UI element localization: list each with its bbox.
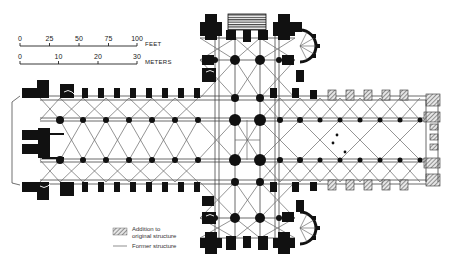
feet-tick-100: 100 <box>131 35 143 42</box>
meters-tick-0: 0 <box>18 53 22 60</box>
scale-bar-meters: 0 10 20 30 METERS <box>18 53 172 65</box>
plan-drawing <box>12 14 440 254</box>
north-porch-steps <box>228 14 266 30</box>
meters-unit-label: METERS <box>145 59 172 65</box>
feet-tick-25: 25 <box>46 35 54 42</box>
legend-hatched-swatch <box>113 228 127 235</box>
legend-addition-line1: Addition to <box>132 226 161 232</box>
vault-ribs <box>40 38 420 238</box>
legend: Addition to original structure Former st… <box>113 226 177 249</box>
meters-tick-10: 10 <box>55 53 63 60</box>
meters-tick-30: 30 <box>133 53 141 60</box>
legend-addition-line2: original structure <box>132 233 177 239</box>
cathedral-floor-plan: 0 25 50 75 100 FEET 0 10 20 30 METERS <box>0 0 455 264</box>
meters-tick-20: 20 <box>94 53 102 60</box>
feet-tick-75: 75 <box>105 35 113 42</box>
north-apsidal-chapel <box>292 22 320 62</box>
legend-former-structure: Former structure <box>132 243 177 249</box>
feet-unit-label: FEET <box>145 41 162 47</box>
south-apsidal-chapel <box>300 212 320 244</box>
scale-bar-feet: 0 25 50 75 100 FEET <box>18 35 162 47</box>
east-end-additions <box>328 90 440 190</box>
feet-tick-0: 0 <box>18 35 22 42</box>
feet-tick-50: 50 <box>75 35 83 42</box>
former-structure-outline <box>12 96 20 185</box>
